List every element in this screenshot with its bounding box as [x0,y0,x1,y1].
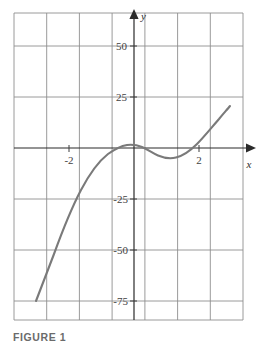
x-tick-label-neg2: -2 [64,154,73,166]
x-tick-label-2: 2 [196,154,202,166]
y-axis-label: y [140,10,146,22]
figure-caption: FIGURE 1 [13,331,66,343]
y-tick-label-neg25: -25 [113,193,128,205]
y-tick-label-neg75: -75 [113,295,128,307]
x-axis-label: x [246,158,252,170]
x-axis-arrow-icon [246,143,256,152]
figure-container: 50 25 -25 -50 -75 -2 2 y x FIGURE 1 [0,0,264,350]
plot-background [14,13,243,320]
y-tick-label-neg50: -50 [113,244,128,256]
y-tick-label-25: 25 [116,91,128,103]
y-tick-label-50: 50 [116,40,128,52]
graph-plot: 50 25 -25 -50 -75 -2 2 y x [0,0,264,350]
